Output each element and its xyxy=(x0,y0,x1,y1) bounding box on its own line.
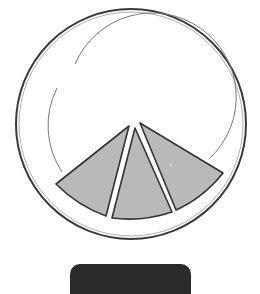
bottom-button[interactable] xyxy=(70,264,191,294)
